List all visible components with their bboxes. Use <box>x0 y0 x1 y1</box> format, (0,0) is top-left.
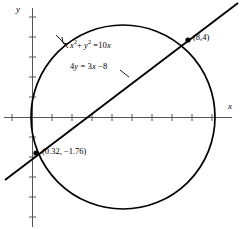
line-equation-label: 4y = 3x −8 <box>70 62 107 71</box>
circle-eq-rhs-x: x <box>107 40 111 50</box>
circle-leader-line <box>56 35 68 48</box>
circle-eq-equals: =10 <box>91 40 107 50</box>
point-dot-lower <box>33 150 38 155</box>
point-dot-upper <box>185 37 190 42</box>
line-leader-line <box>120 70 129 77</box>
point-label-upper: (8,4) <box>193 33 209 42</box>
x-axis-label: x <box>228 102 232 111</box>
y-axis-label: y <box>16 5 20 14</box>
line-curve <box>5 3 238 180</box>
circle-equation-label: x2+ y2 =10x <box>70 41 111 50</box>
math-figure: y x x2+ y2 =10x 4y = 3x −8 (8,4) (0.32, … <box>0 0 242 229</box>
line-eq-equals: = 3 <box>78 61 92 71</box>
point-label-lower: (0.32, −1.76) <box>42 147 86 156</box>
line-eq-rhs: −8 <box>96 61 107 71</box>
